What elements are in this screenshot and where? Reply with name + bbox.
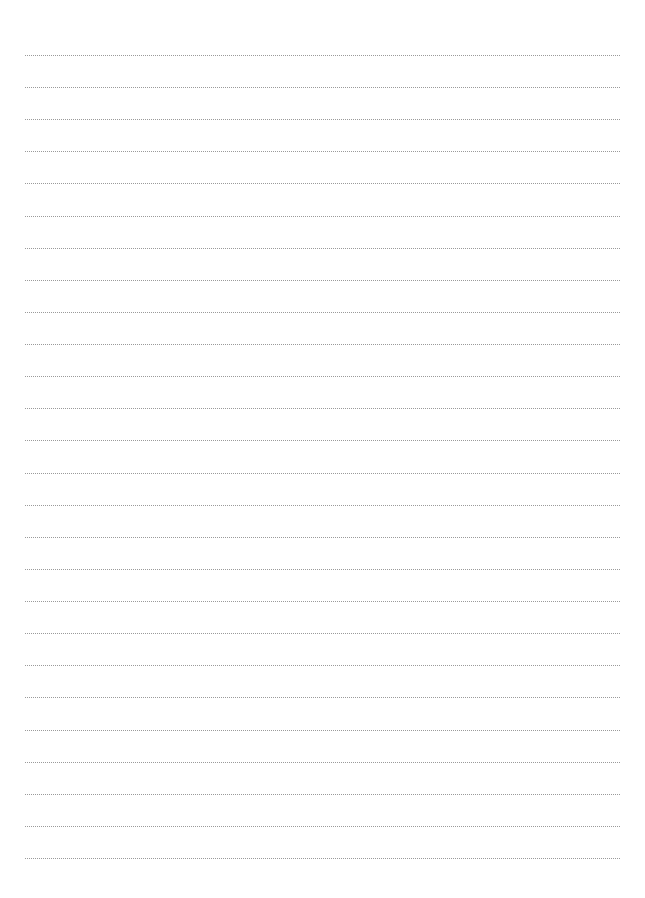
ruled-line bbox=[25, 312, 620, 313]
ruled-line bbox=[25, 376, 620, 377]
ruled-line bbox=[25, 762, 620, 763]
ruled-line bbox=[25, 505, 620, 506]
ruled-line bbox=[25, 473, 620, 474]
ruled-line bbox=[25, 183, 620, 184]
ruled-line bbox=[25, 216, 620, 217]
lined-paper-page bbox=[0, 0, 645, 898]
ruled-line bbox=[25, 601, 620, 602]
ruled-line bbox=[25, 248, 620, 249]
ruled-line bbox=[25, 665, 620, 666]
ruled-line bbox=[25, 826, 620, 827]
ruled-line bbox=[25, 633, 620, 634]
ruled-line bbox=[25, 151, 620, 152]
ruled-line bbox=[25, 408, 620, 409]
ruled-line bbox=[25, 344, 620, 345]
ruled-line bbox=[25, 55, 620, 56]
ruled-line bbox=[25, 280, 620, 281]
ruled-line bbox=[25, 440, 620, 441]
ruled-line bbox=[25, 569, 620, 570]
ruled-line bbox=[25, 697, 620, 698]
ruled-line bbox=[25, 794, 620, 795]
ruled-line bbox=[25, 730, 620, 731]
ruled-line bbox=[25, 537, 620, 538]
ruled-line bbox=[25, 87, 620, 88]
ruled-line bbox=[25, 119, 620, 120]
ruled-line bbox=[25, 858, 620, 859]
